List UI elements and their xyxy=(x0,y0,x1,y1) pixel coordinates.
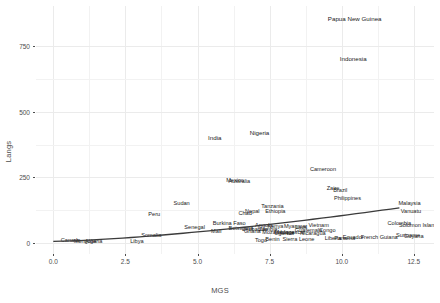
data-point-label: Sierra Leone xyxy=(282,237,314,243)
data-point-label: Peru xyxy=(148,212,160,218)
data-point-label: Nigeria xyxy=(250,130,270,136)
x-tick-label: 7.5 xyxy=(250,258,290,265)
y-tick-mark xyxy=(33,112,35,113)
x-tick-mark xyxy=(270,254,271,256)
scatter-chart-figure: Langs MGS Papua New GuineaIndonesiaNiger… xyxy=(0,0,440,303)
x-tick-label: 10.0 xyxy=(322,258,362,265)
data-point-label: Somalia xyxy=(141,233,161,239)
gridline-vertical-minor xyxy=(306,6,307,254)
data-point-label: Philippines xyxy=(334,196,361,202)
gridline-vertical-minor xyxy=(89,6,90,254)
gridline-vertical xyxy=(53,6,54,254)
data-point-label: Senegal xyxy=(184,225,205,231)
x-tick-label: 5.0 xyxy=(178,258,218,265)
gridline-vertical xyxy=(270,6,271,254)
data-point-label: Cameroon xyxy=(310,167,336,173)
data-point-label: Algeria xyxy=(85,239,102,245)
x-tick-mark xyxy=(414,254,415,256)
data-point-label: Chad xyxy=(238,212,251,218)
plot-panel: Papua New GuineaIndonesiaNigeriaIndiaCam… xyxy=(36,6,434,254)
data-point-label: Sudan xyxy=(174,202,190,208)
data-point-label: Papua New Guinea xyxy=(328,16,382,22)
y-tick-label: 750 xyxy=(0,42,30,49)
gridline-horizontal-minor xyxy=(36,145,434,146)
trend-line xyxy=(36,6,434,254)
gridline-vertical xyxy=(125,6,126,254)
data-point-label: Libya xyxy=(130,240,143,246)
gridline-vertical xyxy=(414,6,415,254)
gridline-vertical-minor xyxy=(378,6,379,254)
y-tick-label: 0 xyxy=(0,240,30,247)
y-tick-mark xyxy=(33,46,35,47)
x-tick-label: 0.0 xyxy=(33,258,73,265)
x-tick-mark xyxy=(198,254,199,256)
gridline-vertical xyxy=(198,6,199,254)
gridline-vertical xyxy=(342,6,343,254)
data-point-label: Ethiopia xyxy=(265,210,285,216)
x-tick-mark xyxy=(342,254,343,256)
gridline-vertical-minor xyxy=(161,6,162,254)
data-point-label: French Guiana xyxy=(361,235,398,241)
data-point-label: Malaysia xyxy=(398,201,420,207)
y-tick-label: 500 xyxy=(0,108,30,115)
x-tick-mark xyxy=(125,254,126,256)
y-tick-mark xyxy=(33,243,35,244)
y-tick-label: 250 xyxy=(0,174,30,181)
data-point-label: India xyxy=(208,135,221,141)
data-point-label: Benin xyxy=(265,237,279,243)
gridline-horizontal-minor xyxy=(36,79,434,80)
data-point-label: Brazil xyxy=(333,188,347,194)
data-point-label: Guyana xyxy=(404,234,424,240)
data-point-label: Indonesia xyxy=(340,56,367,62)
data-point-label: Liberia xyxy=(325,236,342,242)
y-axis-title-text: Langs xyxy=(5,141,14,162)
gridline-vertical-minor xyxy=(234,6,235,254)
gridline-horizontal-minor xyxy=(36,210,434,211)
data-point-label: Mali xyxy=(211,230,221,236)
gridline-horizontal xyxy=(36,112,434,113)
data-point-label: Ghana xyxy=(244,229,261,235)
data-point-label: Togo xyxy=(255,238,267,244)
data-point-label: Vanuatu xyxy=(401,209,421,215)
x-tick-label: 2.5 xyxy=(105,258,145,265)
y-tick-mark xyxy=(33,177,35,178)
x-tick-mark xyxy=(53,254,54,256)
x-tick-label: 12.5 xyxy=(394,258,434,265)
gridline-horizontal xyxy=(36,46,434,47)
data-point-label: Australia xyxy=(228,179,250,185)
x-axis-title: MGS xyxy=(0,286,440,295)
data-point-label: Solomon Islands xyxy=(399,223,434,229)
